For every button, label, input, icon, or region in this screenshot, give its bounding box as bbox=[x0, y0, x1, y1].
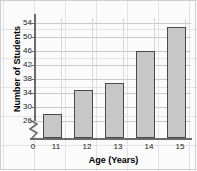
bar-age-11 bbox=[43, 114, 62, 138]
bar-age-13 bbox=[105, 83, 124, 139]
x-tick-label-12: 12 bbox=[74, 142, 100, 151]
y-tick-label-34: 34 bbox=[16, 89, 32, 97]
plot-area bbox=[36, 18, 191, 138]
bar-age-12 bbox=[74, 90, 93, 139]
bar-age-14 bbox=[136, 51, 155, 138]
y-tick-label-54: 54 bbox=[16, 19, 32, 27]
y-tick-label-42: 42 bbox=[16, 61, 32, 69]
axis-break-icon bbox=[28, 119, 40, 140]
y-tick-label-50: 50 bbox=[16, 33, 32, 41]
x-tick-label-13: 13 bbox=[105, 142, 131, 151]
y-tick-label-38: 38 bbox=[16, 75, 32, 83]
x-axis-title: Age (Years) bbox=[36, 155, 191, 165]
x-tick-label-15: 15 bbox=[167, 142, 193, 151]
x-tick-label-14: 14 bbox=[136, 142, 162, 151]
y-tick-label-46: 46 bbox=[16, 47, 32, 55]
x-tick-label-11: 11 bbox=[43, 142, 69, 151]
y-axis-line bbox=[34, 14, 36, 121]
y-tick-label-30: 30 bbox=[16, 103, 32, 111]
x-axis-line bbox=[30, 138, 192, 140]
bar-age-15 bbox=[167, 27, 186, 139]
gridline-54 bbox=[36, 23, 191, 24]
chart-image: Number of Students 54 50 46 42 38 34 30 … bbox=[0, 0, 197, 171]
